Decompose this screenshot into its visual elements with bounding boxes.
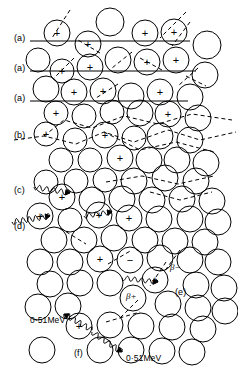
positive-ion-sign: + [102,129,108,141]
atom-circle [105,47,131,73]
atom-circle [177,84,203,110]
atom-circle [37,271,63,297]
atom-circle [97,312,123,338]
atom-circle [183,272,209,298]
atom-circle [78,148,102,172]
atom-circle [179,339,205,365]
atom-circle [72,104,96,128]
positive-ion-sign: + [53,107,59,119]
positive-ion-sign: + [71,86,77,98]
atom-circle [132,227,158,253]
atom-circle [34,170,58,194]
positive-ion-sign: + [157,86,163,98]
secondary-electron-track [106,312,140,322]
atom-circle [159,314,185,340]
row-label-a2: (a) [14,64,25,73]
atom-circle [29,337,55,363]
atom-circle [211,275,237,301]
photon-arrowhead [117,347,122,352]
positive-ion-sign: + [126,212,132,224]
annotation-beta-minus: β− [170,263,181,272]
atom-circle: + [44,20,70,46]
row-label-c: (c) [14,186,25,195]
secondary-electron-track [150,192,212,200]
atom-circle [57,249,83,275]
atom-circle [67,270,93,296]
atom-circle [212,298,238,324]
annotation-mev-upper: 0·51MeV [30,316,65,325]
atom-circle: + [75,31,101,57]
annotation-mev-lower: 0·51MeV [126,354,161,363]
atom-circle [33,76,59,102]
atom-circle [164,147,190,173]
positive-ion-sign: + [97,253,103,265]
negative-ion-sign: − [127,254,133,266]
atom-circle: − [117,247,143,273]
atom-circle [97,270,123,296]
positive-ion-sign: + [165,108,171,120]
positive-ion-sign: + [117,152,123,164]
positive-ion-sign: + [173,54,179,66]
atom-circle: + [107,145,133,171]
atom-circle [192,62,218,88]
atom-circle [169,186,195,212]
atom-circle [100,100,124,124]
positive-ion-sign: + [100,85,106,97]
row-label-f: (f) [74,349,83,358]
atom-circle [109,186,135,212]
atom-circle [192,229,218,255]
row-label-d: (d) [14,222,25,231]
positive-ion-sign: + [171,26,177,38]
atoms-layer: +++++++++++++++++++++−++ [25,8,238,365]
atom-circle: + [116,205,142,231]
positive-ion-sign: + [142,27,148,39]
solid-track-layer [30,41,196,101]
atom-circle [139,187,165,213]
row-label-b: (b) [14,131,25,140]
atom-circle [71,227,97,253]
atom-circle [63,128,87,152]
secondary-electron-track [112,52,132,68]
secondary-electron-track [52,10,70,38]
atom-circle [177,206,203,232]
atom-circle [26,48,50,72]
atom-circle: + [44,101,68,125]
atom-circle [177,127,203,153]
atom-circle: + [163,47,189,73]
row-label-a3: (a) [14,94,25,103]
atom-circle [41,227,67,253]
atom-circle [49,148,73,172]
atom-circle [193,31,221,59]
atom-circle: + [49,184,75,210]
figure-canvas: +++++++++++++++++++++−++ (a)(a)(a)(b)(c)… [0,0,238,372]
atom-circle [96,8,124,36]
positive-ion-sign: + [59,191,65,203]
atom-circle: + [77,54,103,80]
positive-ion-sign: + [54,27,60,39]
secondary-electron-track [106,176,214,184]
atom-circle [162,228,188,254]
atom-circle: + [132,20,158,46]
row-label-a1: (a) [14,34,25,43]
atom-circle [205,249,231,275]
atom-circle: + [87,246,113,272]
row-label-e: (e) [175,288,186,297]
atom-circle [93,168,117,192]
atom-circle [128,313,154,339]
dashed-track-layer [14,10,236,322]
photon-wavy-layer [12,185,158,352]
annotation-beta-plus: β+ [126,292,137,301]
